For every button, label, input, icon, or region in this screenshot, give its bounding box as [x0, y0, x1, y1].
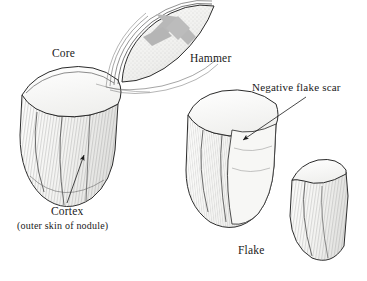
struck-core-group	[186, 90, 306, 228]
label-negative-flake-scar: Negative flake scar	[252, 82, 341, 94]
negative-flake-scar	[228, 124, 277, 224]
core-striking-platform	[22, 67, 121, 117]
hammer-group	[96, 0, 218, 93]
label-cortex-note: (outer skin of nodule)	[17, 221, 108, 232]
knapping-diagram: Core Hammer Negative flake scar Flake Co…	[0, 0, 367, 281]
label-cortex: Cortex	[51, 205, 84, 217]
label-core: Core	[52, 47, 75, 59]
core-group	[20, 67, 121, 207]
flake-group	[290, 159, 348, 260]
label-flake: Flake	[238, 244, 265, 256]
label-hammer: Hammer	[190, 52, 231, 64]
flake-hatch	[290, 172, 348, 260]
diagram-artwork	[0, 0, 367, 281]
